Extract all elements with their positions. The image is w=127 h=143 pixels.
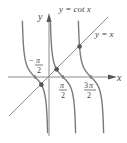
svg-text:2: 2 (87, 91, 91, 100)
y-axis-arrow-icon (47, 13, 52, 22)
tick-label-pi-over-2: π 2 (59, 81, 67, 100)
line-label: y = x (94, 29, 114, 39)
intersection-point (77, 44, 82, 49)
svg-text:π: π (89, 81, 94, 90)
svg-text:π: π (60, 81, 65, 90)
intersection-point (54, 67, 59, 72)
intersection-point (39, 82, 44, 87)
x-axis-arrow-icon (108, 75, 117, 80)
curve-label: y = cot x (58, 4, 91, 14)
line-y-equals-x (9, 17, 108, 116)
svg-text:2: 2 (61, 91, 65, 100)
y-axis-label: y (37, 11, 43, 22)
svg-text:2: 2 (37, 66, 41, 75)
svg-text:π: π (36, 56, 41, 65)
x-axis-label: x (116, 72, 122, 83)
cot-x-diagram: y x y = cot x y = x − π 2 π 2 3 π 2 (0, 0, 127, 143)
svg-text:3: 3 (84, 81, 88, 90)
tick-label-3pi-over-2: 3 π 2 (84, 81, 96, 100)
svg-text:−: − (29, 56, 34, 65)
